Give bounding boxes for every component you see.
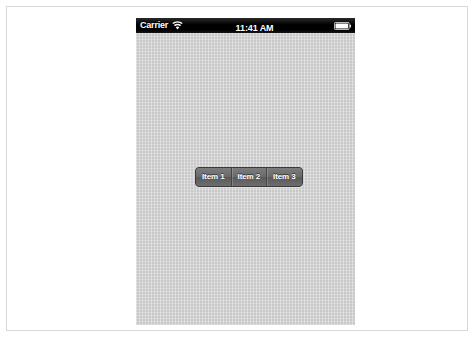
clock-label: 11:41 AM bbox=[236, 23, 274, 33]
battery-icon bbox=[334, 22, 351, 30]
segment-item-3[interactable]: Item 3 bbox=[266, 168, 302, 186]
segment-item-1[interactable]: Item 1 bbox=[196, 168, 231, 186]
segment-item-2[interactable]: Item 2 bbox=[231, 168, 267, 186]
status-bar-center-group: 11:41 AM bbox=[183, 18, 334, 35]
segmented-control[interactable]: Item 1 Item 2 Item 3 bbox=[195, 167, 303, 187]
segment-item-2-label: Item 2 bbox=[238, 173, 261, 181]
status-bar-left-group: Carrier bbox=[140, 21, 183, 30]
status-bar: Carrier 11:41 AM bbox=[136, 18, 355, 33]
carrier-label: Carrier bbox=[140, 21, 168, 30]
status-bar-right-group bbox=[334, 22, 351, 30]
wifi-icon bbox=[172, 21, 183, 30]
segment-item-3-label: Item 3 bbox=[273, 173, 296, 181]
device-screen: Carrier 11:41 AM bbox=[136, 18, 355, 325]
page-frame: Carrier 11:41 AM bbox=[6, 6, 468, 331]
segment-item-1-label: Item 1 bbox=[202, 173, 225, 181]
